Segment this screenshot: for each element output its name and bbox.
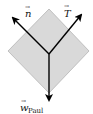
svg-text:T: T <box>64 8 72 19</box>
svg-text:Paul: Paul <box>28 107 44 114</box>
weight-label: → w Paul <box>20 97 44 114</box>
svg-text:n: n <box>25 8 31 19</box>
normal-force-label: → n <box>25 3 31 19</box>
free-body-diagram: → n → T → w Paul <box>0 0 93 114</box>
tension-label: → T <box>64 2 72 19</box>
